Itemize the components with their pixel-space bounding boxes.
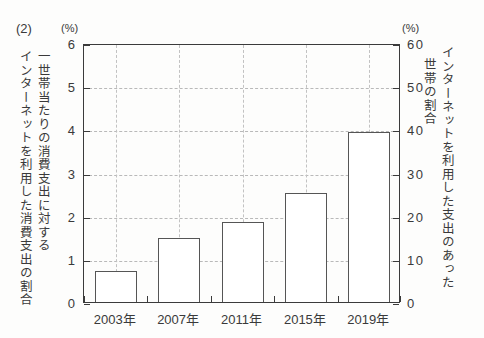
left-axis-caption-outer: インターネットを利用した消費支出の割合	[18, 50, 31, 307]
bar-chart-figure: (2) (%) (%) インターネットを利用した消費支出の割合 一世帯当たりの消…	[0, 0, 484, 338]
y-axis-right-tick-label: 10	[407, 252, 437, 267]
y-axis-right-tick-label: 20	[407, 209, 437, 224]
bar-2019年	[348, 132, 390, 302]
axis-tick-x	[338, 296, 339, 302]
axis-tick-right	[393, 88, 399, 89]
y-axis-left-tick-label: 3	[53, 166, 75, 181]
y-axis-left-tick-label: 0	[53, 296, 75, 311]
axis-tick-x	[274, 296, 275, 302]
axis-tick-right	[393, 304, 399, 305]
y-axis-right-tick-label: 60	[407, 37, 437, 52]
y-axis-left-tick-label: 1	[53, 252, 75, 267]
y-axis-left-tick-label: 5	[53, 80, 75, 95]
axis-tick-right	[393, 175, 399, 176]
axis-tick-left	[84, 131, 90, 132]
y-axis-right-tick-label: 40	[407, 123, 437, 138]
axis-tick-left	[84, 175, 90, 176]
axis-tick-right	[393, 45, 399, 46]
bar-2015年	[285, 193, 327, 302]
axis-tick-x	[400, 296, 401, 302]
left-axis-caption-inner: 一世帯当たりの消費支出に対する	[36, 50, 49, 253]
figure-number-label: (2)	[16, 21, 32, 36]
left-axis-unit-label: (%)	[61, 22, 78, 34]
y-axis-right-tick-label: 30	[407, 166, 437, 181]
y-axis-right-tick-label: 50	[407, 80, 437, 95]
plot-area	[83, 44, 400, 303]
axis-tick-right	[393, 131, 399, 132]
gridline-horizontal	[84, 88, 399, 89]
y-axis-right-tick-label: 0	[407, 296, 437, 311]
axis-tick-left	[84, 88, 90, 89]
y-axis-left-tick-label: 2	[53, 209, 75, 224]
bar-2007年	[158, 238, 200, 302]
bar-2011年	[222, 222, 264, 302]
axis-tick-left	[84, 304, 90, 305]
axis-tick-left	[84, 45, 90, 46]
axis-tick-left	[84, 218, 90, 219]
y-axis-left-tick-label: 4	[53, 123, 75, 138]
y-axis-left-tick-label: 6	[53, 37, 75, 52]
axis-tick-x	[211, 296, 212, 302]
axis-tick-x	[147, 296, 148, 302]
x-axis-tick-label: 2019年	[331, 309, 405, 328]
axis-tick-right	[393, 218, 399, 219]
axis-tick-left	[84, 261, 90, 262]
bar-2003年	[95, 271, 137, 302]
right-axis-unit-label: (%)	[402, 22, 419, 34]
axis-tick-x	[84, 296, 85, 302]
right-axis-caption-outer: インターネットを利用した支出のあった	[440, 46, 453, 289]
gridline-vertical	[116, 45, 117, 302]
axis-tick-right	[393, 261, 399, 262]
